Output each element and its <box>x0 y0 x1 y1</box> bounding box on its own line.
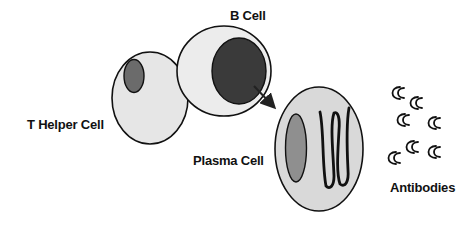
antibody-icon <box>429 117 441 129</box>
plasma-cell <box>275 87 363 211</box>
antibody-icon <box>407 141 419 153</box>
b-cell-label: B Cell <box>230 8 266 23</box>
plasma-cell-nucleus <box>286 114 307 182</box>
b-cell <box>177 26 271 116</box>
antibodies-label: Antibodies <box>390 180 455 195</box>
antibody-icon <box>393 87 405 99</box>
antibodies-group <box>389 87 441 164</box>
antibody-icon <box>429 146 441 158</box>
t-helper-cell-label: T Helper Cell <box>27 117 104 132</box>
t-helper-nucleus <box>124 60 144 93</box>
diagram-canvas: B Cell T Helper Cell Plasma Cell Antibod… <box>0 0 476 225</box>
plasma-cell-label: Plasma Cell <box>193 153 264 168</box>
antibody-icon <box>411 97 423 109</box>
b-cell-nucleus <box>212 38 266 104</box>
antibody-icon <box>389 152 401 164</box>
antibody-icon <box>398 114 410 126</box>
